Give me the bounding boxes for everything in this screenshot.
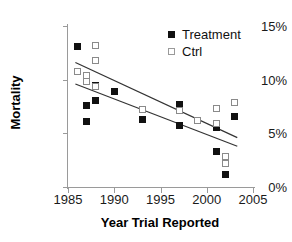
filled-square-icon [168,31,175,38]
data-point-ctrl [231,99,238,106]
legend-item-treatment: Treatment [168,26,241,43]
data-point-ctrl [194,117,201,124]
data-point-treatment [213,148,220,155]
data-point-ctrl [176,107,183,114]
data-point-treatment [231,113,238,120]
data-point-ctrl [213,120,220,127]
chart-figure: 0%5%10%15%19851990199520002005 Year Tria… [0,0,292,242]
trendline [75,84,237,146]
data-point-ctrl [92,83,99,90]
data-point-treatment [139,116,146,123]
data-point-treatment [74,43,81,50]
y-tick-label: 5% [230,127,292,140]
data-point-treatment [83,118,90,125]
legend-item-label: Ctrl [182,45,202,58]
data-point-treatment [176,122,183,129]
y-tick-mark [63,80,68,81]
x-tick-label: 2000 [183,193,231,207]
y-tick-label: 10% [230,74,292,87]
x-tick-label: 1995 [137,193,185,207]
x-axis-title: Year Trial Reported [60,215,260,230]
y-axis-title: Mortality [8,58,23,148]
data-point-ctrl [92,42,99,49]
data-point-ctrl [222,160,229,167]
data-point-treatment [92,97,99,104]
data-point-treatment [83,102,90,109]
x-tick-label: 2005 [229,193,277,207]
data-point-treatment [111,88,118,95]
data-point-ctrl [139,106,146,113]
legend-item-label: Treatment [182,28,241,41]
chart-legend: Treatment Ctrl [168,26,241,60]
open-square-icon [168,48,175,55]
x-tick-label: 1985 [44,193,92,207]
y-tick-mark [63,133,68,134]
legend-item-ctrl: Ctrl [168,43,241,60]
y-axis-line [67,24,68,189]
data-point-ctrl [92,57,99,64]
y-tick-mark [63,26,68,27]
data-point-treatment [222,171,229,178]
data-point-ctrl [213,105,220,112]
x-tick-label: 1990 [90,193,138,207]
data-point-ctrl [83,78,90,85]
data-point-ctrl [74,68,81,75]
